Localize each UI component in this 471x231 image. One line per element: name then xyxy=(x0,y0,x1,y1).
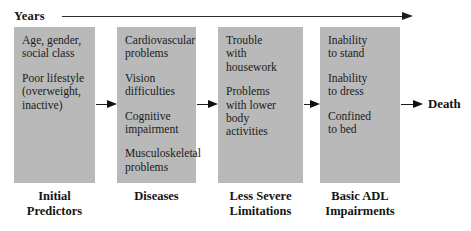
connector-arrow-icon-2 xyxy=(197,100,218,109)
connector-shaft xyxy=(197,104,208,105)
stage-box-basic-adl-impairments: Inability to stand Inability to dress Co… xyxy=(320,27,400,183)
stage-caption-diseases: Diseases xyxy=(117,189,196,204)
connector-head xyxy=(310,100,320,108)
stage-caption-less-severe-limitations: Less Severe Limitations xyxy=(214,189,307,218)
stage-caption-initial-predictors: Initial Predictors xyxy=(14,189,95,218)
stage-item: Cognitive impairment xyxy=(125,110,193,137)
connector-head xyxy=(107,100,117,108)
stage-box-content: Inability to stand Inability to dress Co… xyxy=(328,34,397,136)
connector-head xyxy=(413,100,423,108)
timeline-axis-line xyxy=(62,16,407,17)
connector-arrow-icon-4 xyxy=(401,100,424,109)
diagram-canvas: Years Age, gender, social class Poor lif… xyxy=(0,0,471,231)
stage-item: Confined to bed xyxy=(328,110,397,137)
stage-item: Problems with lower body activities xyxy=(226,85,300,139)
connector-head xyxy=(208,100,218,108)
stage-item: Trouble with housework xyxy=(226,34,300,74)
connector-shaft xyxy=(96,104,107,105)
timeline-arrow-icon xyxy=(402,12,413,20)
stage-box-initial-predictors: Age, gender, social class Poor lifestyle… xyxy=(14,27,95,183)
stage-item: Inability to stand xyxy=(328,34,397,61)
stage-box-content: Trouble with housework Problems with low… xyxy=(226,34,300,139)
stage-item: Poor lifestyle (overweight, inactive) xyxy=(22,72,92,112)
stage-box-content: Age, gender, social class Poor lifestyle… xyxy=(22,34,92,112)
stage-item: Age, gender, social class xyxy=(22,34,92,61)
connector-arrow-icon-1 xyxy=(96,100,117,109)
terminal-node-death: Death xyxy=(428,96,461,112)
stage-item: Vision difficulties xyxy=(125,72,193,99)
connector-arrow-icon-3 xyxy=(304,100,320,109)
stage-box-content: Cardiovascular problems Vision difficult… xyxy=(125,34,193,174)
stage-item: Musculoskeletal problems xyxy=(125,147,193,174)
timeline-label: Years xyxy=(14,8,45,24)
stage-caption-basic-adl-impairments: Basic ADL Impairments xyxy=(316,189,404,218)
stage-box-less-severe-limitations: Trouble with housework Problems with low… xyxy=(218,27,303,183)
stage-box-diseases: Cardiovascular problems Vision difficult… xyxy=(117,27,196,183)
timeline-years: Years xyxy=(14,8,419,26)
stage-item: Inability to dress xyxy=(328,72,397,99)
stage-item: Cardiovascular problems xyxy=(125,34,193,61)
